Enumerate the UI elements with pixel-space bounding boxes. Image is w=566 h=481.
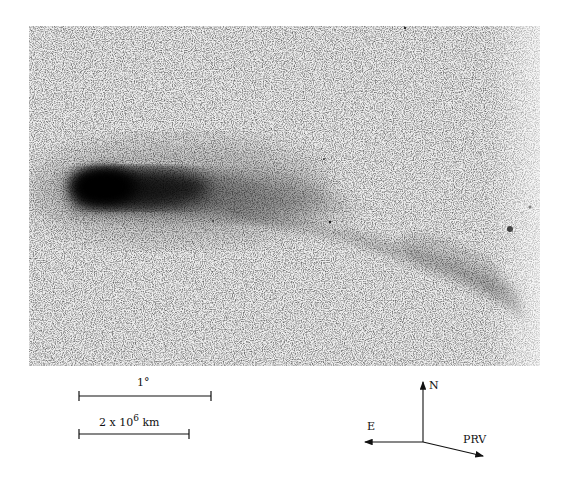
compass-east-label: E [367, 420, 375, 433]
scale-bar-degree [78, 390, 214, 402]
scale-label-km-unit: km [142, 416, 159, 429]
compass-prv-label: PRV [463, 433, 486, 446]
orientation-compass: N E PRV [355, 370, 505, 470]
scale-label-km-base: 2 x 10 [99, 416, 133, 429]
scale-label-km: 2 x 106 km [99, 413, 160, 429]
scale-label-degree: 1° [137, 376, 150, 389]
scale-bar-km [78, 428, 192, 440]
comet-image [29, 26, 540, 366]
comet-photograph [29, 26, 540, 366]
scale-label-km-exp: 6 [133, 413, 139, 423]
compass-north-label: N [429, 379, 439, 392]
